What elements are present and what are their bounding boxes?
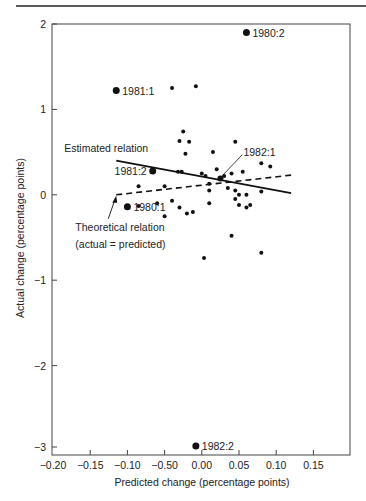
- y-tick-label: −1: [34, 274, 46, 286]
- annotation-text: Theoretical relation: [75, 221, 164, 233]
- y-axis: 210−1−2−3: [34, 18, 57, 453]
- data-point: [137, 184, 141, 188]
- data-point: [176, 170, 180, 174]
- annotation-text: Estimated relation: [64, 142, 148, 154]
- data-point: [244, 193, 248, 197]
- data-point: [200, 171, 204, 175]
- data-point: [202, 256, 206, 260]
- data-point: [170, 199, 174, 203]
- x-tick-label: −0.20: [40, 459, 67, 471]
- data-point: [233, 197, 237, 201]
- data-point: [211, 150, 215, 154]
- y-axis-label: Actual change (percentage points): [14, 158, 26, 318]
- data-point: [183, 152, 187, 156]
- data-point: [248, 203, 252, 207]
- data-point: [237, 203, 241, 207]
- data-point: [163, 184, 167, 188]
- point-label: 1981:2: [115, 165, 147, 177]
- x-tick-label: −0.10: [114, 459, 141, 471]
- annotations: Estimated relationTheoretical relation(a…: [64, 142, 165, 250]
- point-label: 1980:2: [252, 27, 284, 39]
- data-point: [194, 84, 198, 88]
- x-axis-label: Predicted change (percentage points): [114, 476, 289, 488]
- point-label: 1981:1: [122, 85, 154, 97]
- data-point: [215, 167, 219, 171]
- data-point: [244, 206, 248, 210]
- point-label: 1980:1: [133, 201, 165, 213]
- data-point: [259, 189, 263, 193]
- labeled-point: [217, 176, 223, 182]
- y-tick-label: 2: [40, 18, 46, 30]
- x-tick-label: −0.15: [77, 459, 104, 471]
- data-point: [180, 170, 184, 174]
- y-tick-label: 0: [40, 189, 46, 201]
- data-point: [241, 170, 245, 174]
- data-points: [137, 84, 273, 260]
- data-point: [268, 165, 272, 169]
- x-axis: −0.20−0.15−0.10−0.500.000.050.100.15: [40, 450, 324, 471]
- y-tick-label: −3: [34, 441, 46, 453]
- data-point: [177, 206, 181, 210]
- point-label: 1982:2: [202, 440, 234, 452]
- data-point: [230, 234, 234, 238]
- data-point: [207, 182, 211, 186]
- data-point: [191, 210, 195, 214]
- data-point: [259, 251, 263, 255]
- data-point: [230, 171, 234, 175]
- annotation-text: (actual = predicted): [75, 238, 165, 250]
- y-tick-label: 1: [40, 103, 46, 115]
- data-point: [204, 174, 208, 178]
- data-point: [259, 161, 263, 165]
- data-point: [207, 201, 211, 205]
- data-point: [237, 193, 241, 197]
- x-tick-label: 0.00: [192, 459, 213, 471]
- x-tick-label: −0.50: [151, 459, 178, 471]
- point-label: 1982:1: [243, 146, 275, 158]
- y-tick-label: −2: [34, 360, 46, 372]
- data-point: [187, 140, 191, 144]
- theoretical-relation-line: [116, 175, 291, 195]
- x-tick-label: 0.10: [266, 459, 287, 471]
- data-point: [207, 189, 211, 193]
- data-point: [233, 189, 237, 193]
- labeled-point: [124, 203, 131, 210]
- data-point: [185, 212, 189, 216]
- data-point: [181, 130, 185, 134]
- data-point: [170, 86, 174, 90]
- x-tick-label: 0.15: [303, 459, 324, 471]
- labeled-point: [113, 87, 120, 94]
- labeled-point: [149, 167, 156, 174]
- x-tick-label: 0.05: [229, 459, 250, 471]
- data-point: [177, 139, 181, 143]
- labeled-point: [243, 29, 250, 36]
- arrowhead-icon: [112, 196, 117, 203]
- data-point: [163, 214, 167, 218]
- labeled-point: [192, 442, 199, 449]
- data-point: [233, 140, 237, 144]
- scatter-chart: 210−1−2−3 −0.20−0.15−0.10−0.500.000.050.…: [0, 0, 366, 501]
- data-point: [226, 186, 230, 190]
